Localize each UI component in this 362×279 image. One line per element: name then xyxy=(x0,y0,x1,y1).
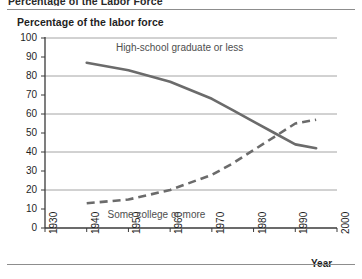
x-axis-tick-label: 1970 xyxy=(216,212,226,234)
series-line-high-school xyxy=(87,63,316,149)
x-axis-tick-label: 1980 xyxy=(258,212,268,234)
y-axis-tick-label: 80 xyxy=(11,71,37,81)
y-axis-tick-label: 10 xyxy=(11,204,37,214)
y-axis-tick-label: 30 xyxy=(11,166,37,176)
gridlines xyxy=(45,38,337,190)
y-axis-tick-label: 70 xyxy=(11,90,37,100)
y-axis-tick-label: 50 xyxy=(11,128,37,138)
y-axis-tick-label: 20 xyxy=(11,185,37,195)
x-axis-tick-label: 1990 xyxy=(299,212,309,234)
x-axis-tick-label: 1940 xyxy=(91,212,101,234)
series-annotation-label: High-school graduate or less xyxy=(116,42,243,53)
bottom-divider xyxy=(7,264,355,265)
x-axis-tick-label: 1930 xyxy=(49,212,59,234)
series-line-some-college xyxy=(87,120,316,204)
series-annotation-label: Some college or more xyxy=(108,209,206,220)
chart-figure: Percentage of the Labor Force Percentage… xyxy=(0,0,362,279)
x-axis-tick-label: 2000 xyxy=(341,212,351,234)
y-axis-tick-label: 100 xyxy=(11,33,37,43)
y-axis-tick-label: 40 xyxy=(11,147,37,157)
y-axis-tick-label: 60 xyxy=(11,109,37,119)
y-axis-tick-label: 90 xyxy=(11,52,37,62)
y-axis-tick-label: 0 xyxy=(11,223,37,233)
